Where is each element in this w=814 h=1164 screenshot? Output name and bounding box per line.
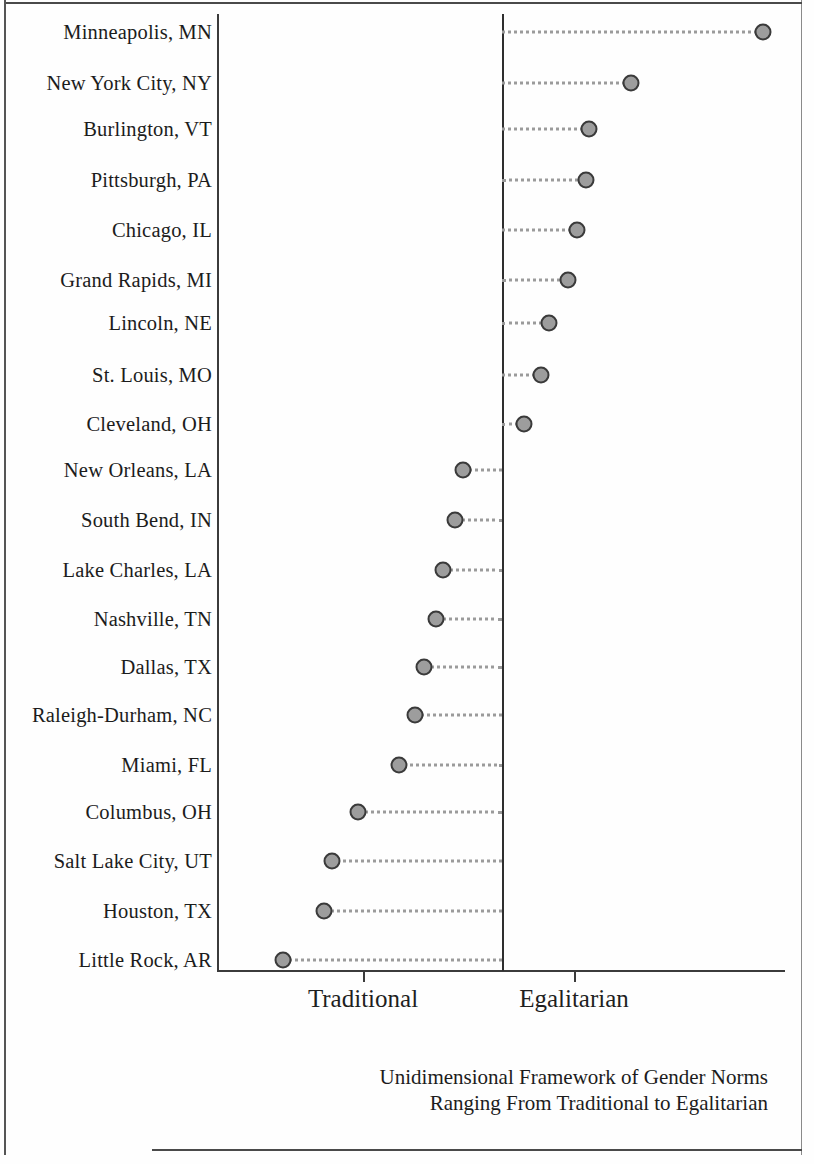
category-label: Grand Rapids, MI <box>60 269 212 291</box>
leader-line <box>324 910 502 913</box>
x-axis-line <box>217 970 785 972</box>
category-label: Little Rock, AR <box>79 949 212 971</box>
leader-line <box>424 666 502 669</box>
category-label: South Bend, IN <box>81 509 212 531</box>
bottom-rule <box>152 1149 802 1151</box>
x-axis-tick-label: Traditional <box>308 984 418 1014</box>
data-point-marker[interactable] <box>316 903 333 920</box>
caption-line-1: Unidimensional Framework of Gender Norms <box>0 1064 768 1090</box>
data-point-marker[interactable] <box>533 367 550 384</box>
category-label: Chicago, IL <box>112 219 212 241</box>
category-label: Lake Charles, LA <box>63 559 213 581</box>
leader-line <box>502 31 763 34</box>
leader-line <box>502 279 568 282</box>
data-point-marker[interactable] <box>350 804 367 821</box>
data-point-marker[interactable] <box>447 512 464 529</box>
leader-line <box>399 764 502 767</box>
category-label: Pittsburgh, PA <box>91 169 212 191</box>
x-axis-tick-label: Egalitarian <box>519 984 629 1014</box>
leader-line <box>436 618 502 621</box>
leader-line <box>502 179 586 182</box>
category-label: Columbus, OH <box>85 801 212 823</box>
dot-plot-chart: Minneapolis, MNNew York City, NYBurlingt… <box>0 0 814 1040</box>
leader-line <box>502 82 631 85</box>
data-point-marker[interactable] <box>428 611 445 628</box>
category-label: New York City, NY <box>46 72 212 94</box>
category-label: Raleigh-Durham, NC <box>32 704 212 726</box>
leader-line <box>502 128 589 131</box>
category-label: New Orleans, LA <box>64 459 212 481</box>
data-point-marker[interactable] <box>578 172 595 189</box>
leader-line <box>358 811 502 814</box>
leader-line <box>283 959 502 962</box>
leader-line <box>502 229 577 232</box>
data-point-marker[interactable] <box>324 853 341 870</box>
category-label: Lincoln, NE <box>108 312 212 334</box>
category-label: Minneapolis, MN <box>63 21 212 43</box>
category-label: Cleveland, OH <box>86 413 212 435</box>
data-point-marker[interactable] <box>755 24 772 41</box>
data-point-marker[interactable] <box>581 121 598 138</box>
category-label: Salt Lake City, UT <box>54 850 212 872</box>
x-axis-tick-mark <box>363 970 365 982</box>
data-point-marker[interactable] <box>541 315 558 332</box>
scanned-page: Minneapolis, MNNew York City, NYBurlingt… <box>0 0 814 1164</box>
data-point-marker[interactable] <box>623 75 640 92</box>
figure-caption: Unidimensional Framework of Gender Norms… <box>0 1064 790 1116</box>
category-label: Burlington, VT <box>83 118 212 140</box>
data-point-marker[interactable] <box>275 952 292 969</box>
data-point-marker[interactable] <box>569 222 586 239</box>
zero-reference-line <box>502 14 504 971</box>
x-axis-tick-mark <box>574 970 576 982</box>
category-label: Nashville, TN <box>94 608 212 630</box>
data-point-marker[interactable] <box>560 272 577 289</box>
data-point-marker[interactable] <box>435 562 452 579</box>
data-point-marker[interactable] <box>516 416 533 433</box>
leader-line <box>332 860 502 863</box>
data-point-marker[interactable] <box>407 707 424 724</box>
leader-line <box>443 569 502 572</box>
y-axis-line <box>217 14 219 971</box>
category-label: Dallas, TX <box>120 656 212 678</box>
data-point-marker[interactable] <box>391 757 408 774</box>
caption-line-2: Ranging From Traditional to Egalitarian <box>0 1090 768 1116</box>
leader-line <box>415 714 502 717</box>
category-label: Miami, FL <box>121 754 212 776</box>
data-point-marker[interactable] <box>455 462 472 479</box>
category-label: St. Louis, MO <box>92 364 212 386</box>
data-point-marker[interactable] <box>416 659 433 676</box>
category-label: Houston, TX <box>103 900 212 922</box>
